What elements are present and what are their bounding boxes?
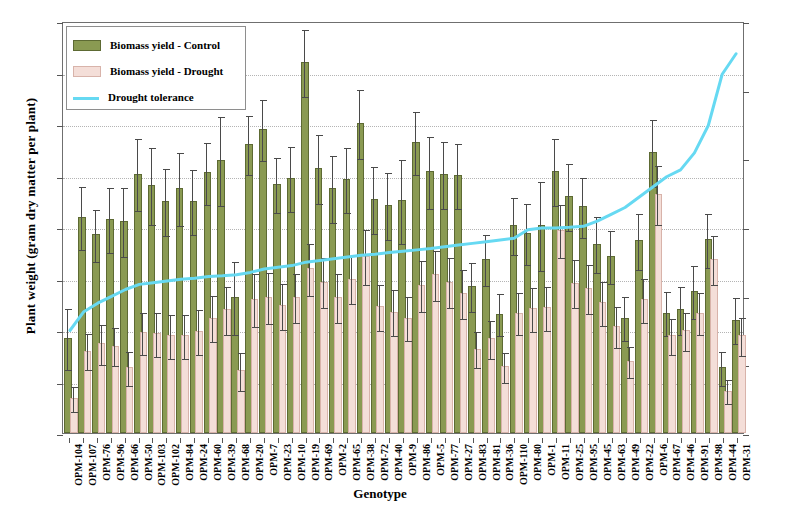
x-tick <box>626 438 627 443</box>
x-tick-label: OPM-19 <box>310 444 321 481</box>
x-tick-label: OPM-36 <box>504 444 515 481</box>
x-tick-label: OPM-2 <box>337 444 348 476</box>
x-tick-label: OPM-98 <box>713 444 724 481</box>
x-tick <box>654 438 655 443</box>
legend-label-control: Biomass yield - Control <box>110 39 220 51</box>
x-tick-label: OPM-39 <box>226 444 237 481</box>
x-tick <box>709 438 710 443</box>
x-tick <box>487 438 488 443</box>
x-tick-label: OPM-27 <box>463 444 474 481</box>
x-tick-label: OPM-10 <box>296 444 307 481</box>
x-tick <box>417 438 418 443</box>
x-tick <box>612 438 613 443</box>
x-tick <box>737 438 738 443</box>
x-tick-label: OPM-22 <box>644 444 655 481</box>
x-tick <box>152 438 153 443</box>
legend-item-tolerance: Drought tolerance <box>73 85 245 109</box>
x-tick <box>111 438 112 443</box>
x-tick <box>347 438 348 443</box>
x-tick <box>389 438 390 443</box>
y-axis-left-title: Plant weight (gram dry matter per plant) <box>23 51 39 381</box>
x-tick-label: OPM-67 <box>671 444 682 481</box>
x-tick-label: OPM-84 <box>184 444 195 481</box>
x-tick-label: OPM-72 <box>379 444 390 481</box>
x-tick-label: OPM-63 <box>616 444 627 481</box>
x-tick <box>139 438 140 443</box>
x-tick-label: OPM-60 <box>212 444 223 481</box>
x-tick <box>208 438 209 443</box>
x-tick <box>306 438 307 443</box>
x-tick-label: OPM-110 <box>518 444 529 485</box>
x-tick <box>681 438 682 443</box>
x-tick-label: OPM-76 <box>101 444 112 481</box>
x-tick-label: OPM-1 <box>546 444 557 476</box>
x-tick-label: OPM-50 <box>143 444 154 481</box>
x-tick <box>319 438 320 443</box>
x-tick-label: OPM-66 <box>129 444 140 481</box>
x-tick-label: OPM-96 <box>115 444 126 481</box>
x-tick <box>361 438 362 443</box>
x-tick <box>97 438 98 443</box>
x-tick-label: OPM-23 <box>282 444 293 481</box>
x-tick <box>264 438 265 443</box>
x-tick-label: OPM-44 <box>727 444 738 481</box>
x-tick-label: OPM-46 <box>685 444 696 481</box>
x-tick <box>278 438 279 443</box>
x-tick <box>514 438 515 443</box>
legend-label-drought: Biomass yield - Drought <box>110 65 223 77</box>
x-tick-label: OPM-103 <box>156 444 167 486</box>
x-tick <box>473 438 474 443</box>
x-tick-label: OPM-11 <box>560 444 571 480</box>
x-tick-label: OPM-31 <box>741 444 752 481</box>
x-axis-title: Genotype <box>0 486 760 502</box>
x-tick <box>556 438 557 443</box>
x-tick-label: OPM-45 <box>602 444 613 481</box>
x-tick-label: OPM-20 <box>254 444 265 481</box>
x-tick-label: OPM-6 <box>658 444 669 476</box>
x-tick <box>125 438 126 443</box>
legend-swatch-drought <box>73 66 101 77</box>
x-tick <box>667 438 668 443</box>
x-tick <box>333 438 334 443</box>
x-tick-label: OPM-91 <box>699 444 710 481</box>
x-tick-label: OPM-80 <box>532 444 543 481</box>
legend-swatch-control <box>73 40 101 51</box>
x-tick <box>250 438 251 443</box>
legend-item-control: Biomass yield - Control <box>73 33 245 57</box>
x-tick <box>695 438 696 443</box>
x-tick-label: OPM-65 <box>351 444 362 481</box>
chart-legend: Biomass yield - Control Biomass yield - … <box>66 26 246 110</box>
x-tick-label: OPM-95 <box>588 444 599 481</box>
x-tick <box>570 438 571 443</box>
x-tick-label: OPM-7 <box>268 444 279 476</box>
x-tick <box>180 438 181 443</box>
chart-figure: Plant weight (gram dry matter per plant)… <box>0 0 808 506</box>
x-tick <box>598 438 599 443</box>
x-tick-label: OPM-107 <box>87 444 98 486</box>
x-tick <box>500 438 501 443</box>
x-tick-label: OPM-83 <box>477 444 488 481</box>
x-tick-label: OPM-68 <box>240 444 251 481</box>
x-tick <box>222 438 223 443</box>
x-tick <box>166 438 167 443</box>
x-tick-label: OPM-49 <box>630 444 641 481</box>
x-tick <box>445 438 446 443</box>
x-tick <box>236 438 237 443</box>
x-tick <box>83 438 84 443</box>
legend-label-tolerance: Drought tolerance <box>108 91 194 103</box>
x-tick-label: OPM-9 <box>407 444 418 476</box>
x-tick-label: OPM-40 <box>393 444 404 481</box>
x-tick <box>584 438 585 443</box>
x-tick-label: OPM-69 <box>323 444 334 481</box>
x-tick-label: OPM-24 <box>198 444 209 481</box>
x-tick <box>640 438 641 443</box>
x-tick <box>194 438 195 443</box>
x-tick <box>292 438 293 443</box>
x-tick <box>723 438 724 443</box>
x-tick <box>69 438 70 443</box>
x-tick-label: OPM-38 <box>365 444 376 481</box>
x-tick-label: OPM-86 <box>421 444 432 481</box>
y-tick-right <box>743 435 749 436</box>
legend-swatch-tolerance <box>73 97 99 100</box>
x-tick <box>431 438 432 443</box>
